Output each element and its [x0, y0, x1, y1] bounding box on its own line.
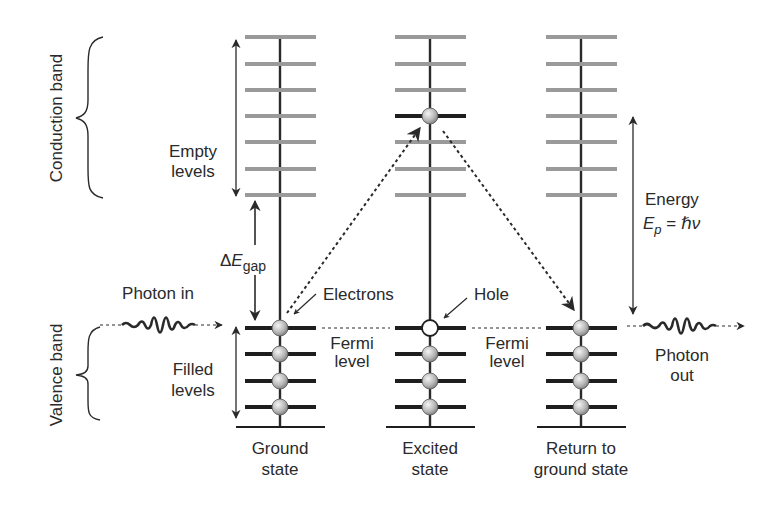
ground-state-label-2: state — [262, 460, 299, 479]
fermi-label-1b: level — [335, 352, 370, 371]
gap-label: ΔEgap — [220, 251, 266, 274]
energy-formula: Ep = ℏν — [643, 214, 701, 237]
valence-band-brace — [76, 327, 100, 420]
return-state-label-2: ground state — [534, 460, 629, 479]
electron-icon — [272, 373, 288, 389]
photon-out-wave — [627, 319, 744, 334]
electron-icon — [422, 346, 438, 362]
electron-icon — [272, 320, 288, 336]
energy-eq: = — [662, 214, 681, 233]
conduction-band-brace — [76, 37, 103, 198]
photon-out-label-2: out — [670, 366, 694, 385]
energy-sub: p — [653, 222, 661, 237]
photon-in-label: Photon in — [122, 284, 194, 303]
energy-label: Energy — [645, 190, 699, 209]
band-diagram: Conduction band Valence band Empty level… — [0, 0, 784, 505]
empty-levels-label-1: Empty — [169, 142, 218, 161]
electrons-label: Electrons — [323, 285, 394, 304]
electron-icon — [272, 346, 288, 362]
hole-pointer — [444, 298, 467, 318]
hole-icon — [422, 320, 438, 336]
ground-state-label-1: Ground — [252, 439, 309, 458]
electron-icon — [422, 373, 438, 389]
electron-icon — [573, 346, 589, 362]
fermi-label-1a: Fermi — [330, 334, 373, 353]
excited-electron-icon — [422, 108, 438, 124]
return-state-label-1: Return to — [546, 439, 616, 458]
electron-icon — [422, 399, 438, 415]
hole-label: Hole — [474, 285, 509, 304]
excited-state-label-1: Excited — [402, 439, 458, 458]
excited-electrons — [422, 346, 438, 415]
energy-e: E — [643, 214, 655, 233]
fermi-label-2b: level — [490, 352, 525, 371]
electron-icon — [272, 399, 288, 415]
fermi-label-2a: Fermi — [485, 334, 528, 353]
photon-in-wave — [100, 318, 222, 333]
electron-icon — [573, 320, 589, 336]
filled-levels-label-1: Filled — [173, 360, 214, 379]
conduction-band-label: Conduction band — [47, 54, 66, 183]
energy-hnu: ℏν — [681, 214, 701, 233]
filled-levels-label-2: levels — [171, 381, 214, 400]
return-state-column: Return to ground state — [534, 36, 629, 479]
relaxation-arrow — [443, 131, 574, 310]
gap-e: E — [231, 251, 243, 270]
excited-state-label-2: state — [412, 460, 449, 479]
excited-state-column: Excited state — [386, 36, 475, 479]
empty-levels-label-2: levels — [171, 162, 214, 181]
valence-band-label: Valence band — [47, 324, 66, 427]
photon-out-label-1: Photon — [655, 346, 709, 365]
electron-icon — [573, 399, 589, 415]
gap-delta: Δ — [220, 251, 231, 270]
electron-icon — [573, 373, 589, 389]
gap-sub: gap — [243, 258, 267, 274]
